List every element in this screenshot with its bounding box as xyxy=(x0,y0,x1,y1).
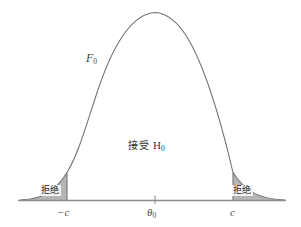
rejection-region-label-left: 拒绝 xyxy=(40,185,61,196)
curve-label-f0: F0 xyxy=(86,52,97,65)
theta-subscript: 0 xyxy=(152,211,156,220)
curve-label-subscript: 0 xyxy=(93,57,97,66)
axis-tick-label-pos-c: c xyxy=(230,206,235,218)
acceptance-region-label: 接受 H0 xyxy=(128,140,165,152)
acceptance-region-label-cjk: 接受 xyxy=(128,141,149,151)
acceptance-region-hypothesis-symbol: H0 xyxy=(153,140,165,152)
hypothesis-letter: H xyxy=(153,139,161,151)
hypothesis-subscript: 0 xyxy=(161,144,165,153)
hypothesis-test-figure: F0 接受 H0 拒绝 拒绝 −c θ0 c xyxy=(0,0,301,227)
axis-tick-label-theta0: θ0 xyxy=(147,206,156,220)
normal-density-curve xyxy=(20,13,285,201)
rejection-region-label-right: 拒绝 xyxy=(232,185,253,196)
axis-tick-label-neg-c: −c xyxy=(57,206,69,218)
